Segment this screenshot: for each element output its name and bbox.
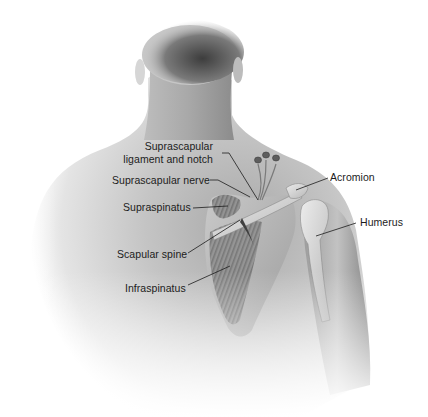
label-humerus: Humerus bbox=[360, 216, 403, 229]
shoulder-illustration bbox=[0, 0, 428, 417]
label-scapular-spine: Scapular spine bbox=[117, 248, 187, 261]
label-line: Suprascapular bbox=[119, 140, 213, 153]
label-line: ligament and notch bbox=[119, 153, 213, 166]
anatomy-figure: Suprascapular ligament and notch Suprasc… bbox=[0, 0, 428, 417]
label-supraspinatus: Supraspinatus bbox=[123, 201, 191, 214]
label-suprascapular-nerve: Suprascapular nerve bbox=[112, 174, 210, 187]
label-infraspinatus: Infraspinatus bbox=[125, 282, 186, 295]
label-acromion: Acromion bbox=[330, 171, 375, 184]
label-suprascapular-ligament-notch: Suprascapular ligament and notch bbox=[119, 140, 213, 165]
